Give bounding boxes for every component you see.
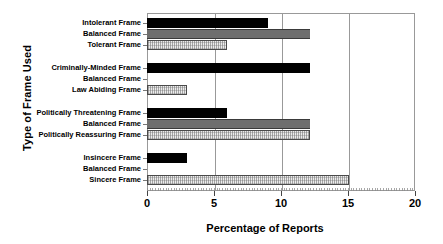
category-label: Politically Reassuring Frame [38, 131, 141, 139]
y-axis-tick [143, 169, 147, 170]
y-axis-tick [143, 90, 147, 91]
x-axis-tick-20 [415, 191, 416, 196]
bar [147, 63, 310, 73]
category-label: Insincere Frame [83, 154, 141, 162]
category-label: Balanced Frame [83, 75, 141, 83]
category-label: Balanced Frame [83, 120, 141, 128]
bar [147, 29, 310, 39]
y-axis-tick [143, 135, 147, 136]
category-label: Criminally-Minded Frame [51, 64, 141, 72]
bar [147, 18, 268, 28]
bar [147, 130, 310, 140]
bar [147, 153, 187, 163]
bar [147, 85, 187, 95]
gridline-15 [349, 14, 350, 190]
y-axis-tick [143, 68, 147, 69]
gridline-10 [282, 14, 283, 190]
y-axis-tick [143, 158, 147, 159]
x-axis-tick-15 [348, 191, 349, 196]
x-axis-tick-5 [214, 191, 215, 196]
x-axis-tick-0 [147, 191, 148, 196]
y-axis-tick [143, 180, 147, 181]
y-axis-tick [143, 124, 147, 125]
y-axis-tick [143, 79, 147, 80]
y-axis-tick [143, 34, 147, 35]
category-label: Intolerant Frame [82, 19, 141, 27]
category-label: Sincere Frame [89, 176, 141, 184]
bar [147, 108, 227, 118]
category-label: Politically Threatening Frame [36, 109, 141, 117]
x-axis-tick-label: 15 [333, 197, 363, 209]
x-axis-tick-label: 20 [400, 197, 430, 209]
category-label: Balanced Frame [83, 165, 141, 173]
x-axis-tick-label: 5 [199, 197, 229, 209]
x-axis-title: Percentage of Reports [100, 222, 430, 234]
y-axis-tick [143, 113, 147, 114]
y-axis-tick [143, 23, 147, 24]
bar [147, 175, 349, 185]
category-label-column: Intolerant FrameBalanced FrameTolerant F… [0, 13, 144, 191]
bar [147, 40, 227, 50]
bar [147, 119, 310, 129]
category-label: Tolerant Frame [87, 41, 141, 49]
y-axis-tick [143, 45, 147, 46]
category-label: Balanced Frame [83, 30, 141, 38]
category-label: Law Abiding Frame [72, 86, 141, 94]
x-axis-tick-label: 0 [132, 197, 162, 209]
x-axis-tick-10 [281, 191, 282, 196]
bar-chart: Type of Frame Used Intolerant FrameBalan… [0, 0, 443, 244]
x-axis-tick-label: 10 [266, 197, 296, 209]
